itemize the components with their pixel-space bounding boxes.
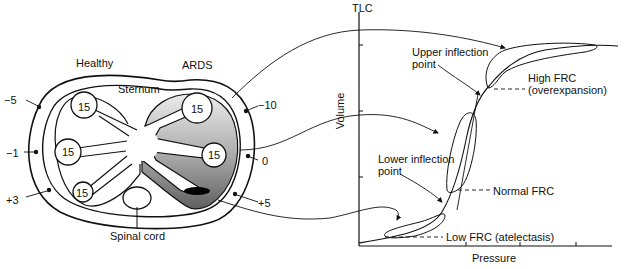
annotation-high-frc-2: (overexpansion) <box>528 84 607 96</box>
pressure-left-bottom: +3 <box>6 194 19 206</box>
annotation-lower-inflection: Lower inflection <box>378 153 454 165</box>
annotation-lower-inflection-2: point <box>378 165 402 177</box>
label-ards: ARDS <box>182 59 213 71</box>
annotation-normal-frc: Normal FRC <box>493 185 554 197</box>
pressure-right-bottom: +5 <box>258 197 271 209</box>
annotation-high-frc: High FRC <box>528 72 576 84</box>
label-sternum: Sternum <box>118 83 160 95</box>
y-axis-label: Volume <box>334 93 346 130</box>
pressure-right-mid: 0 <box>262 155 268 167</box>
annotation-upper-inflection: Upper inflection <box>412 46 488 58</box>
alveolus-value: 15 <box>191 103 203 115</box>
loop-low-frc <box>385 214 445 238</box>
alveolus-value: 15 <box>78 101 90 113</box>
spinal-cord <box>123 187 151 209</box>
alveolus-value: 15 <box>76 187 88 199</box>
annotation-low-frc: Low FRC (atelectasis) <box>446 231 554 243</box>
label-healthy: Healthy <box>76 57 113 69</box>
x-axis-label: Pressure <box>472 252 516 264</box>
pressure-left-top: −5 <box>4 94 17 106</box>
airway-hub <box>127 129 159 161</box>
pressure-right-top: −10 <box>258 99 277 111</box>
alveolus-value: 15 <box>62 146 74 158</box>
connector-lower <box>218 200 398 220</box>
diagram-canvas <box>0 0 624 269</box>
label-tlc: TLC <box>352 2 373 14</box>
label-spinal-cord: Spinal cord <box>110 230 165 242</box>
atelectasis-region <box>184 187 210 195</box>
connector-upper <box>232 30 505 98</box>
annotation-upper-inflection-2: point <box>412 58 436 70</box>
pressure-left-mid: −1 <box>6 147 19 159</box>
alveolus-value: 15 <box>208 149 220 161</box>
compliance-tangent <box>457 94 478 210</box>
